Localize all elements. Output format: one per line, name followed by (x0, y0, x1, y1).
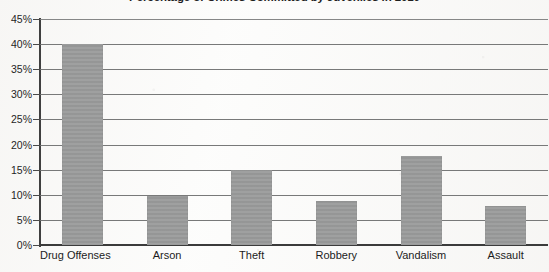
chart-title: Percentage of Crimes Committed by Juveni… (0, 0, 549, 3)
y-tick-label-10%: 10% (0, 189, 32, 201)
gridline-20% (40, 145, 548, 146)
y-tick-5% (33, 220, 40, 221)
y-tick-40% (33, 44, 40, 45)
x-label-drug-offenses: Drug Offenses (40, 249, 111, 261)
y-tick-label-35%: 35% (0, 63, 32, 75)
gridline-45% (40, 19, 548, 20)
gridline-35% (40, 69, 548, 70)
x-label-robbery: Robbery (316, 249, 358, 261)
y-tick-15% (33, 170, 40, 171)
bar-assault (485, 206, 526, 245)
y-tick-label-15%: 15% (0, 164, 32, 176)
bar-robbery (316, 201, 357, 245)
y-tick-label-5%: 5% (0, 214, 32, 226)
y-tick-35% (33, 69, 40, 70)
bar-vandalism (401, 156, 442, 245)
bar-arson (147, 196, 188, 245)
y-tick-25% (33, 119, 40, 120)
y-tick-label-25%: 25% (0, 113, 32, 125)
y-tick-label-0%: 0% (0, 239, 32, 251)
x-label-vandalism: Vandalism (396, 249, 447, 261)
y-tick-0% (33, 245, 40, 246)
gridline-15% (40, 170, 548, 171)
y-tick-label-40%: 40% (0, 38, 32, 50)
gridline-25% (40, 119, 548, 120)
chart-page: Percentage of Crimes Committed by Juveni… (0, 0, 549, 272)
y-tick-label-30%: 30% (0, 88, 32, 100)
gridline-30% (40, 94, 548, 95)
x-label-theft: Theft (239, 249, 264, 261)
gridline-40% (40, 44, 548, 45)
y-tick-label-20%: 20% (0, 139, 32, 151)
x-label-assault: Assault (488, 249, 524, 261)
y-tick-30% (33, 94, 40, 95)
gridline-10% (40, 195, 548, 196)
plot-area (40, 19, 548, 245)
y-tick-20% (33, 145, 40, 146)
x-label-arson: Arson (153, 249, 182, 261)
gridline-0% (40, 244, 548, 246)
y-tick-label-45%: 45% (0, 13, 32, 25)
y-tick-10% (33, 195, 40, 196)
y-tick-45% (33, 19, 40, 20)
bar-drug-offenses (62, 44, 103, 245)
gridline-5% (40, 220, 548, 221)
bar-theft (231, 170, 272, 245)
